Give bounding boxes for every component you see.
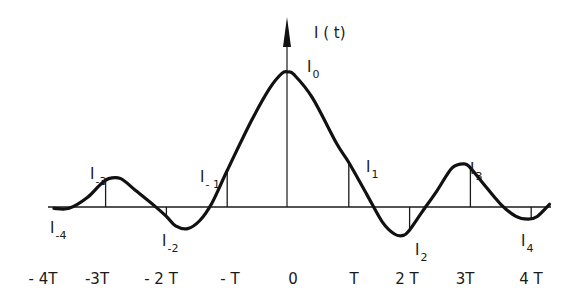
x-tick-labels: - 4T-3T- 2 T- T0T2 T3T4 T xyxy=(29,270,544,288)
x-tick-label-5: T xyxy=(348,270,359,288)
sample-label-symbol: I xyxy=(521,232,525,250)
sample-label-subscript: 4 xyxy=(526,242,533,255)
waveform-curve xyxy=(54,72,550,236)
sample-label-symbol: I xyxy=(366,158,370,176)
sample-label-subscript: 2 xyxy=(420,251,427,264)
sample-label-subscript: -2 xyxy=(167,242,178,255)
sample-labels: I-4I-3I-2I- 1I0I1I2I3I4 xyxy=(50,58,533,264)
x-tick-label-3: - T xyxy=(220,270,240,288)
sample-label-5: I1 xyxy=(366,158,378,181)
x-tick-label-1: -3T xyxy=(85,270,110,288)
sample-label-7: I3 xyxy=(470,160,482,183)
x-tick-label-4: 0 xyxy=(288,270,298,288)
sample-label-1: I-3 xyxy=(90,165,106,188)
sample-label-symbol: I xyxy=(162,232,166,250)
x-tick-label-7: 3T xyxy=(456,270,476,288)
sample-label-8: I4 xyxy=(521,232,533,255)
curve-group xyxy=(54,72,550,236)
sample-label-symbol: I xyxy=(90,165,94,183)
y-axis-arrow-icon xyxy=(283,17,291,47)
sample-label-subscript: 3 xyxy=(475,170,482,183)
x-tick-label-2: - 2 T xyxy=(144,270,178,288)
sample-label-4: I0 xyxy=(307,58,319,81)
sample-label-symbol: I xyxy=(200,168,204,186)
sample-label-3: I- 1 xyxy=(200,168,220,191)
sample-label-symbol: I xyxy=(470,160,474,178)
sample-label-subscript: 1 xyxy=(371,168,378,181)
sample-label-symbol: I xyxy=(415,241,419,259)
x-tick-label-0: - 4T xyxy=(29,270,59,288)
sample-label-subscript: - 1 xyxy=(205,178,219,191)
x-tick-label-6: 2 T xyxy=(395,270,419,288)
sample-label-symbol: I xyxy=(50,219,54,237)
diagram: I-4I-3I-2I- 1I0I1I2I3I4 - 4T-3T- 2 T- T0… xyxy=(0,0,574,301)
sample-label-0: I-4 xyxy=(50,219,66,242)
sample-label-subscript: 0 xyxy=(312,68,319,81)
sample-label-6: I2 xyxy=(415,241,427,264)
sample-label-subscript: -3 xyxy=(95,175,106,188)
sample-label-subscript: -4 xyxy=(55,229,66,242)
x-tick-label-8: 4 T xyxy=(519,270,543,288)
sample-label-2: I-2 xyxy=(162,232,178,255)
y-axis-label: I ( t) xyxy=(314,24,346,42)
sample-label-symbol: I xyxy=(307,58,311,76)
